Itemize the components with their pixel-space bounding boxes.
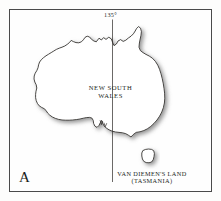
panel-letter-label: A [19,169,30,186]
new-south-wales-label: NEW SOUTH WALES [0,84,221,100]
nsw-label-line-1: NEW SOUTH [89,84,132,91]
vdl-label-line-1: VAN DIEMEN'S LAND [117,170,186,177]
map-figure: 135° NEW SOUTH WALES VAN DIEMEN'S LAND (… [0,0,221,201]
meridian-degree-label: 135° [0,11,221,18]
nsw-label-line-2: WALES [0,92,221,100]
australia-mainland-coastline [34,27,165,137]
vdl-label-line-2: (TASMANIA) [96,177,208,184]
van-diemens-land-label: VAN DIEMEN'S LAND (TASMANIA) [96,170,208,185]
tasmania-island [142,149,155,163]
